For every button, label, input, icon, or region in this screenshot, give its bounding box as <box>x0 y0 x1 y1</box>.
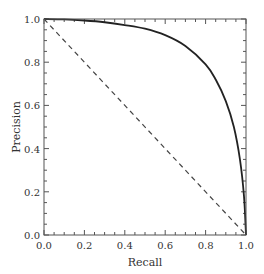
y-tick-label: 0.0 <box>24 230 40 241</box>
y-tick-label: 1.0 <box>24 14 40 25</box>
y-tick-label: 0.8 <box>24 57 40 68</box>
x-axis-label: Recall <box>128 256 163 269</box>
data-series <box>44 19 246 235</box>
y-tick-label: 0.4 <box>24 144 40 155</box>
x-tick-label: 1.0 <box>238 240 254 251</box>
y-tick-label: 0.2 <box>24 187 40 198</box>
y-axis-label: Precision <box>10 101 23 153</box>
random-baseline <box>44 19 246 235</box>
x-tick-label: 0.0 <box>36 240 52 251</box>
precision-recall-chart: 0.00.20.40.60.81.00.00.20.40.60.81.0 Rec… <box>0 0 264 274</box>
x-tick-label: 0.6 <box>157 240 173 251</box>
x-tick-label: 0.4 <box>117 240 133 251</box>
y-tick-label: 0.6 <box>24 100 40 111</box>
x-tick-label: 0.8 <box>198 240 214 251</box>
x-tick-label: 0.2 <box>76 240 92 251</box>
tick-labels: 0.00.20.40.60.81.00.00.20.40.60.81.0 <box>24 14 254 251</box>
